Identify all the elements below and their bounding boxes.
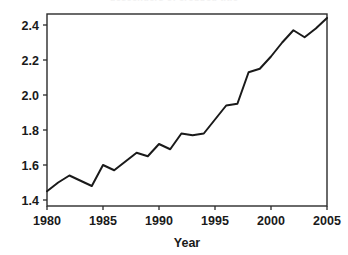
x-tick-label: 1990	[145, 214, 173, 228]
chart-container: descenders of cropped title 1.41.61.82.0…	[0, 0, 348, 255]
y-tick-label: 1.8	[22, 124, 39, 138]
plot-frame	[47, 14, 327, 206]
x-tick-label: 1980	[33, 214, 61, 228]
x-tick-label: 1995	[201, 214, 229, 228]
y-tick-label: 2.0	[22, 89, 39, 103]
x-tick-label: 1985	[89, 214, 117, 228]
x-axis-tick-labels: 198019851990199520002005	[33, 214, 341, 228]
y-tick-label: 1.4	[22, 194, 39, 208]
x-tick-label: 2005	[313, 214, 341, 228]
y-axis-tick-labels: 1.41.61.82.02.22.4	[22, 19, 39, 208]
y-tick-label: 2.2	[22, 54, 39, 68]
data-series-line	[47, 18, 327, 191]
line-chart-plot: 1.41.61.82.02.22.4 198019851990199520002…	[0, 0, 348, 255]
y-tick-label: 2.4	[22, 19, 39, 33]
plot-frame-rect	[47, 14, 327, 206]
x-tick-label: 2000	[257, 214, 285, 228]
y-tick-label: 1.6	[22, 159, 39, 173]
x-axis-title: Year	[174, 236, 201, 250]
